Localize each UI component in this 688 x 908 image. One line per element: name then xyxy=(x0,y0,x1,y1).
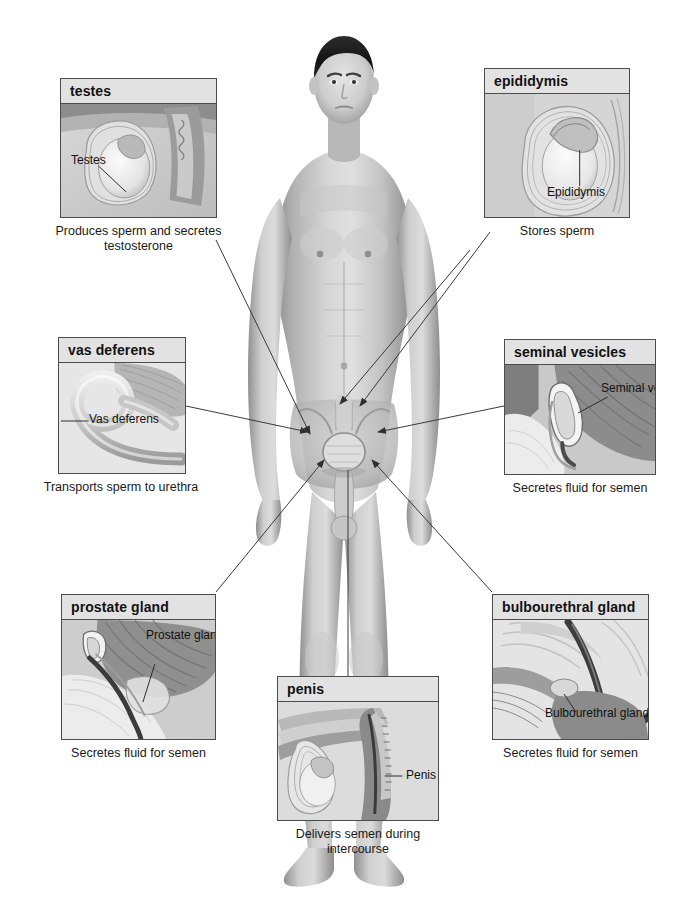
panel-prostate-gland[interactable]: prostate gland xyxy=(61,594,216,761)
panel-callout-seminal-vesicles: Seminal vesicles xyxy=(601,381,656,395)
panel-vas-deferens[interactable]: vas deferens xyxy=(58,337,186,495)
panel-caption-epididymis: Stores sperm xyxy=(484,218,630,239)
panel-art-prostate-gland: Prostate gland xyxy=(62,620,215,740)
panel-title-bar-testes: testes xyxy=(61,79,216,104)
panel-callout-seminal-vesicles-text: Seminal vesicles xyxy=(601,381,656,395)
diagram-canvas: testes xyxy=(0,0,688,908)
panel-art-bulbourethral-gland: Bulbourethral gland xyxy=(493,620,648,740)
panel-caption-testes: Produces sperm and secretes testosterone xyxy=(51,218,226,254)
panel-title-penis: penis xyxy=(287,682,324,696)
panel-caption-prostate-gland: Secretes fluid for semen xyxy=(61,740,216,761)
panel-callout-vas-deferens-text: Vas deferens xyxy=(89,412,159,426)
panel-epididymis[interactable]: epididymis xyxy=(484,68,630,239)
panel-title-bar-prostate-gland: prostate gland xyxy=(62,595,215,620)
panel-title-testes: testes xyxy=(70,84,111,98)
panel-art-testes: Testes xyxy=(61,104,216,218)
panel-title-prostate-gland: prostate gland xyxy=(71,600,169,614)
panel-callout-bulbourethral-gland-text: Bulbourethral gland xyxy=(545,706,649,720)
panel-title-vas-deferens: vas deferens xyxy=(68,343,155,357)
panel-title-bar-epididymis: epididymis xyxy=(485,69,629,94)
panel-title-epididymis: epididymis xyxy=(494,74,568,88)
panel-callout-testes: Testes xyxy=(71,154,106,168)
panel-bulbourethral-gland[interactable]: bulbourethral gland xyxy=(492,594,649,761)
panel-art-seminal-vesicles: Seminal vesicles xyxy=(505,365,655,475)
panel-title-bar-bulbourethral-gland: bulbourethral gland xyxy=(493,595,648,620)
panel-title-bar-seminal-vesicles: seminal vesicles xyxy=(505,340,655,365)
panel-title-bar-penis: penis xyxy=(278,677,438,702)
panel-penis[interactable]: penis xyxy=(277,676,439,857)
panel-caption-vas-deferens: Transports sperm to urethra xyxy=(28,474,214,495)
panel-callout-epididymis: Epididymis xyxy=(547,186,605,200)
panel-callout-penis: Penis xyxy=(406,769,436,783)
panel-art-vas-deferens: Vas deferens xyxy=(59,363,185,474)
panel-caption-bulbourethral-gland: Secretes fluid for semen xyxy=(492,740,649,761)
panel-callout-prostate-gland: Prostate gland xyxy=(146,628,216,642)
panel-callout-bulbourethral-gland: Bulbourethral gland xyxy=(545,706,649,720)
panel-title-bulbourethral-gland: bulbourethral gland xyxy=(502,600,635,614)
panel-title-bar-vas-deferens: vas deferens xyxy=(59,338,185,363)
panel-caption-penis: Delivers semen during intercourse xyxy=(277,821,439,857)
panel-art-epididymis: Epididymis xyxy=(485,94,629,218)
panel-caption-seminal-vesicles: Secretes fluid for semen xyxy=(504,475,656,496)
panel-title-seminal-vesicles: seminal vesicles xyxy=(514,345,626,359)
panel-seminal-vesicles[interactable]: seminal vesicles xyxy=(504,339,656,496)
panel-callout-prostate-gland-text: Prostate gland xyxy=(146,628,216,642)
panel-testes[interactable]: testes xyxy=(60,78,217,254)
panel-callout-vas-deferens: Vas deferens xyxy=(89,413,159,427)
panel-art-penis: Penis xyxy=(278,702,438,821)
